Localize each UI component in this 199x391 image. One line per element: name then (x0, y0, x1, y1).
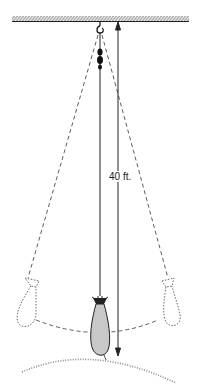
length-arrow (116, 22, 121, 356)
sand-bag (91, 296, 110, 360)
swivel-weight (97, 33, 103, 70)
hook-icon (97, 22, 103, 33)
ceiling (12, 16, 189, 22)
sand-bag-left-position (17, 278, 39, 327)
pendulum-diagram (0, 0, 199, 391)
ground-arc (22, 359, 176, 383)
length-label: 40 ft. (108, 171, 132, 182)
swing-lines (28, 35, 168, 278)
sand-bag-right-position (162, 278, 180, 326)
